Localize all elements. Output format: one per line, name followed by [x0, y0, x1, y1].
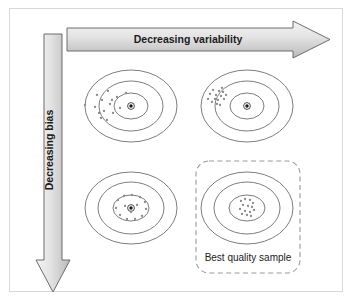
shot-dot	[244, 198, 246, 200]
shot-dot	[212, 89, 214, 91]
shot-dot	[244, 210, 246, 212]
shot-dot	[211, 101, 213, 103]
shot-dot	[115, 207, 117, 209]
shot-dot	[247, 205, 249, 207]
shot-dot	[141, 215, 143, 217]
shot-dot	[136, 204, 138, 206]
shot-dot	[241, 213, 243, 215]
shot-dot	[130, 211, 132, 213]
shot-dot	[119, 214, 121, 216]
best-quality-sample-callout: Best quality sample	[196, 161, 300, 273]
shot-dot	[253, 209, 255, 211]
shot-dot	[117, 199, 119, 201]
shot-dot	[84, 104, 86, 106]
target-top-left	[84, 70, 177, 142]
decreasing-variability-label: Decreasing variability	[134, 33, 243, 45]
shot-dot	[107, 90, 109, 92]
shot-dot	[239, 208, 241, 210]
shot-dot	[246, 214, 248, 216]
shot-dot	[100, 117, 102, 119]
shot-dot	[144, 201, 146, 203]
shot-dot	[225, 94, 227, 96]
shot-dot	[216, 103, 218, 105]
decreasing-variability-arrow: Decreasing variability	[67, 21, 330, 58]
target-top-right	[201, 70, 293, 142]
shot-dot	[131, 194, 133, 196]
best-quality-sample-label: Best quality sample	[205, 252, 292, 263]
shot-dot	[98, 112, 100, 114]
shot-dot	[214, 98, 216, 100]
shot-dot	[109, 103, 111, 105]
target-bottom-left	[85, 172, 177, 244]
shot-dot	[103, 110, 105, 112]
shot-dot	[223, 98, 225, 100]
shot-dot	[222, 91, 224, 93]
shot-dot	[242, 204, 244, 206]
shot-dot	[119, 107, 121, 109]
shot-dot	[116, 96, 118, 98]
shot-dot	[240, 200, 242, 202]
decreasing-bias-arrow: Decreasing bias	[36, 34, 70, 292]
target-ring-middle	[214, 182, 280, 234]
shot-dot	[94, 106, 96, 108]
shot-dot	[218, 90, 220, 92]
shot-dot	[126, 218, 128, 220]
shot-dot	[124, 205, 126, 207]
shot-dot	[111, 99, 113, 101]
shot-dot	[101, 99, 103, 101]
shot-dot	[249, 211, 251, 213]
shot-dot	[221, 87, 223, 89]
shot-dot	[220, 95, 222, 97]
shot-dot	[207, 98, 209, 100]
shot-dot	[123, 195, 125, 197]
decreasing-bias-label: Decreasing bias	[43, 110, 55, 191]
shot-dot	[145, 208, 147, 210]
figure-root: Decreasing variability Decreasing bias B…	[0, 0, 353, 301]
shot-dot	[215, 94, 217, 96]
bias-variance-diagram: Decreasing variability Decreasing bias B…	[0, 0, 353, 301]
bullseye-dot	[129, 104, 132, 107]
shot-dot	[219, 104, 221, 106]
shot-dot	[139, 196, 141, 198]
shot-dot	[250, 215, 252, 217]
shot-dot	[252, 202, 254, 204]
shot-dot	[106, 119, 108, 121]
target-ring-outer	[201, 172, 293, 244]
shot-dot	[96, 94, 98, 96]
shot-dot	[125, 92, 127, 94]
shot-dot	[134, 218, 136, 220]
target-bottom-right	[201, 172, 293, 244]
shot-dot	[251, 206, 253, 208]
bullseye-dot	[245, 104, 248, 107]
shot-dot	[112, 112, 114, 114]
shot-dot	[249, 199, 251, 201]
shot-group	[239, 198, 255, 217]
shot-dot	[217, 99, 219, 101]
target-ring-inner	[229, 195, 265, 221]
shot-dot	[209, 93, 211, 95]
bullseye-dot	[129, 206, 132, 209]
